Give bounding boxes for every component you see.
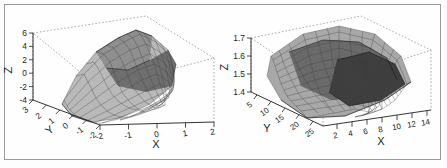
- x-tick-left-1: -1: [123, 129, 133, 140]
- y-tick-right-4: 25: [303, 126, 316, 139]
- y-tick-left-4: -1: [73, 124, 85, 137]
- x-axis-label-right: X: [377, 135, 385, 147]
- z-tick-right-1: 1.6: [233, 51, 245, 61]
- y-tick-right-2: 15: [273, 112, 286, 125]
- plot-panel-left: 6 4 2 0 -2 -4 Z 3 2 1 0 -1: [0, 0, 222, 156]
- x-axis-label-left: X: [152, 138, 160, 150]
- surface-plot-right: 1.7 1.6 1.5 1.4 Z 5 10 15 20 25 Y: [219, 0, 437, 156]
- x-tick-left-4: 2: [209, 126, 216, 137]
- x-tick-right-4: 10: [391, 122, 402, 133]
- x-tick-right-6: 14: [420, 117, 431, 128]
- surface-mesh-right: [267, 26, 411, 118]
- surface-mesh-left: [62, 30, 176, 123]
- z-tick-right-0: 1.7: [233, 33, 245, 43]
- y-tick-right-3: 20: [288, 119, 301, 132]
- y-tick-right-0: 5: [245, 100, 254, 110]
- z-tick-right-3: 1.4: [233, 87, 245, 97]
- y-tick-left-1: 2: [33, 110, 43, 121]
- plot-panel-right: 1.7 1.6 1.5 1.4 Z 5 10 15 20 25 Y: [219, 0, 437, 156]
- z-axis-right: 1.7 1.6 1.5 1.4 Z: [219, 33, 251, 97]
- x-tick-right-1: 4: [347, 129, 354, 139]
- z-axis-label-right: Z: [219, 63, 230, 70]
- z-tick-left-1: 4: [22, 41, 27, 51]
- z-tick-left-0: 6: [22, 28, 27, 38]
- figure-container: 6 4 2 0 -2 -4 Z 3 2 1 0 -1: [0, 0, 447, 168]
- x-tick-right-2: 6: [362, 127, 369, 137]
- x-axis-left: -2 -1 0 1 2 X: [95, 122, 216, 150]
- x-tick-left-3: 1: [182, 128, 189, 139]
- x-tick-right-5: 12: [406, 119, 417, 130]
- y-tick-left-3: 0: [60, 120, 70, 131]
- y-tick-right-1: 10: [258, 105, 271, 118]
- z-tick-left-2: 2: [22, 55, 27, 65]
- y-axis-label-right: Y: [263, 122, 271, 134]
- z-tick-left-4: -2: [20, 82, 28, 92]
- z-tick-left-5: -4: [20, 95, 28, 105]
- y-tick-left-0: 3: [20, 104, 30, 115]
- z-tick-left-3: 0: [22, 68, 27, 78]
- y-axis-label-left: Y: [43, 122, 57, 136]
- z-axis-left: 6 4 2 0 -2 -4 Z: [2, 28, 33, 105]
- z-tick-right-2: 1.5: [233, 69, 245, 79]
- surface-plot-left: 6 4 2 0 -2 -4 Z 3 2 1 0 -1: [0, 0, 222, 156]
- x-tick-left-0: -2: [95, 130, 105, 141]
- x-tick-right-3: 8: [377, 125, 384, 135]
- z-axis-label-left: Z: [2, 66, 14, 73]
- x-tick-right-0: 2: [332, 131, 339, 141]
